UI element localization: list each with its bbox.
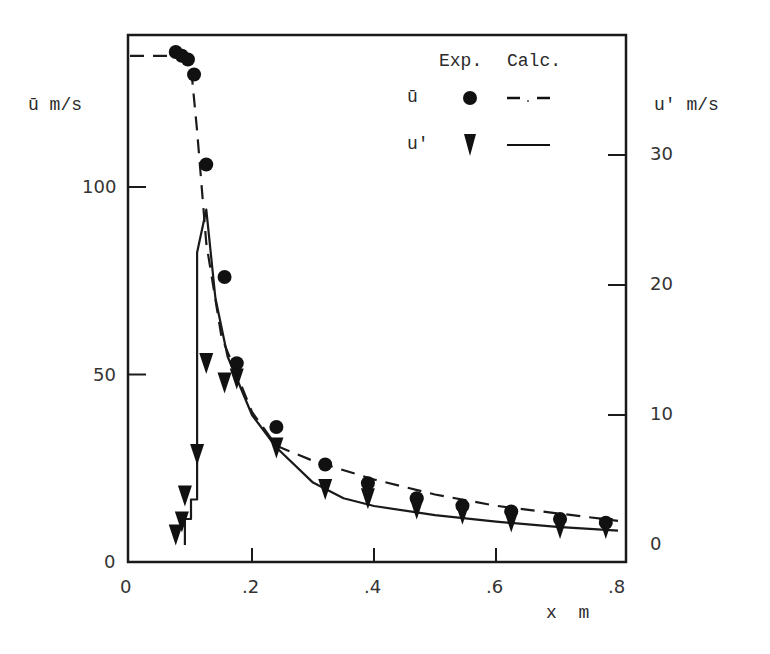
y-left-tick-label: 100 bbox=[82, 178, 116, 196]
legend-triangle-icon bbox=[464, 134, 476, 156]
u-prime-exp-point bbox=[553, 518, 567, 539]
x-tick-label: .4 bbox=[364, 578, 381, 596]
u-prime-exp-point bbox=[455, 504, 469, 525]
legend-circle-icon bbox=[463, 91, 477, 105]
legend-label-u-prime: u' bbox=[407, 135, 429, 153]
u-bar-calc-line bbox=[130, 56, 618, 521]
x-tick-label: 0 bbox=[120, 578, 131, 596]
y-right-tick-label: 0 bbox=[650, 535, 661, 553]
y-right-tick-label: 20 bbox=[650, 275, 673, 293]
u-bar-exp-point bbox=[230, 356, 244, 370]
y-left-tick-label: 50 bbox=[93, 366, 116, 384]
u-prime-exp-point bbox=[230, 369, 244, 390]
y-left-axis-title: ū m/s bbox=[28, 96, 82, 114]
u-bar-exp-point bbox=[187, 68, 201, 82]
legend-header-calc: Calc. bbox=[507, 52, 561, 70]
u-prime-exp-point bbox=[318, 479, 332, 500]
x-tick-label: .6 bbox=[486, 578, 503, 596]
plot-frame bbox=[128, 35, 626, 562]
u-bar-exp-point bbox=[361, 476, 375, 490]
u-bar-exp-point bbox=[269, 420, 283, 434]
u-prime-exp-point bbox=[218, 373, 232, 394]
legend-dot-icon bbox=[527, 100, 529, 102]
y-right-axis-title: u' m/s bbox=[654, 96, 719, 114]
u-prime-calc-line bbox=[185, 210, 618, 545]
y-right-tick-label: 30 bbox=[650, 145, 673, 163]
u-bar-exp-point bbox=[199, 158, 213, 172]
x-axis-title: x m bbox=[546, 604, 589, 622]
u-prime-exp-point bbox=[199, 353, 213, 374]
u-bar-exp-point bbox=[318, 458, 332, 472]
u-prime-exp-point bbox=[190, 444, 204, 465]
u-bar-exp-point bbox=[181, 53, 195, 67]
y-right-tick-label: 10 bbox=[650, 405, 673, 423]
u-prime-exp-point bbox=[410, 499, 424, 520]
x-tick-label: .8 bbox=[608, 578, 625, 596]
x-tick-label: .2 bbox=[242, 578, 259, 596]
u-bar-exp-point bbox=[218, 270, 232, 284]
u-prime-exp-point bbox=[178, 486, 192, 507]
legend bbox=[463, 91, 550, 156]
legend-label-u-bar: ū bbox=[407, 88, 418, 106]
legend-header-exp: Exp. bbox=[439, 52, 482, 70]
y-left-tick-label: 0 bbox=[104, 553, 115, 571]
calc-lines bbox=[130, 56, 618, 545]
exp-markers bbox=[169, 45, 613, 546]
